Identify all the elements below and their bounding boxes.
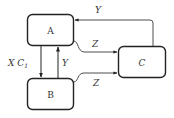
diagram-canvas: A B C X C1 Y Z Z Y xyxy=(0,0,174,118)
node-c: C xyxy=(119,47,166,78)
edge-c-to-a-label: Y xyxy=(95,5,102,15)
edge-a-to-b-label: X C1 xyxy=(7,58,28,69)
edge-b-to-c-label: Z xyxy=(92,78,100,88)
node-c-label: C xyxy=(139,58,146,68)
node-a-label: A xyxy=(46,26,54,36)
edge-c-to-a xyxy=(75,20,153,46)
node-b-label: B xyxy=(47,90,54,100)
edge-b-to-a-label: Y xyxy=(62,58,69,68)
edge-a-to-c-label: Z xyxy=(91,39,99,49)
node-a: A xyxy=(28,15,74,46)
node-b: B xyxy=(28,79,74,110)
